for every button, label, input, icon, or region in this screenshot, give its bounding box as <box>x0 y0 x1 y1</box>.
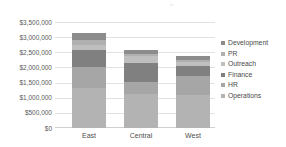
y-axis-tick-label: $2,000,000 <box>0 64 52 71</box>
legend-swatch-icon <box>221 73 225 77</box>
legend-item-development[interactable]: Development <box>221 39 268 47</box>
y-axis-tick-label: $3,000,000 <box>0 34 52 41</box>
stacked-bar-chart: $0$500,000$1,000,000$1,500,000$2,000,000… <box>0 0 286 147</box>
bar-segment-hr[interactable] <box>72 67 106 88</box>
legend-item-outreach[interactable]: Outreach <box>221 60 268 68</box>
x-axis-label-east: East <box>59 131 119 140</box>
legend-item-label: Outreach <box>228 60 256 68</box>
y-axis-tick-label: $500,000 <box>0 109 52 116</box>
bar-segment-hr[interactable] <box>176 76 210 96</box>
legend-swatch-icon <box>221 83 225 87</box>
decorative-speck <box>170 4 173 6</box>
bar-segment-operations[interactable] <box>72 88 106 128</box>
legend-swatch-icon <box>221 62 225 66</box>
legend-item-pr[interactable]: PR <box>221 50 268 58</box>
bar-segment-hr[interactable] <box>124 82 158 94</box>
x-axis-label-central: Central <box>111 131 171 140</box>
bar-segment-operations[interactable] <box>124 94 158 128</box>
bar-west[interactable] <box>176 56 210 128</box>
bar-segment-finance[interactable] <box>176 66 210 76</box>
bar-segment-operations[interactable] <box>176 95 210 128</box>
legend-swatch-icon <box>221 41 225 45</box>
y-axis-tick-label: $3,500,000 <box>0 19 52 26</box>
legend-item-label: PR <box>228 50 237 58</box>
y-axis-tick-label: $0 <box>0 125 52 132</box>
legend-item-hr[interactable]: HR <box>221 81 268 89</box>
chart-legend: DevelopmentPROutreachFinanceHROperations <box>221 39 268 100</box>
legend-item-label: Development <box>228 39 268 47</box>
legend-swatch-icon <box>221 94 225 98</box>
gridline <box>55 22 215 23</box>
legend-item-finance[interactable]: Finance <box>221 71 268 79</box>
y-axis-tick-label: $2,500,000 <box>0 49 52 56</box>
plot-area <box>55 22 215 128</box>
x-axis-label-west: West <box>163 131 223 140</box>
legend-item-label: Finance <box>228 71 252 79</box>
bar-segment-finance[interactable] <box>72 50 106 67</box>
bar-segment-development[interactable] <box>72 33 106 40</box>
bar-central[interactable] <box>124 50 158 128</box>
bar-segment-finance[interactable] <box>124 63 158 82</box>
y-axis-tick-label: $1,000,000 <box>0 94 52 101</box>
legend-item-label: Operations <box>228 92 261 100</box>
legend-swatch-icon <box>221 52 225 56</box>
legend-item-label: HR <box>228 81 238 89</box>
y-axis-tick-label: $1,500,000 <box>0 79 52 86</box>
bar-segment-outreach[interactable] <box>124 56 158 63</box>
bar-east[interactable] <box>72 33 106 128</box>
legend-item-operations[interactable]: Operations <box>221 92 268 100</box>
